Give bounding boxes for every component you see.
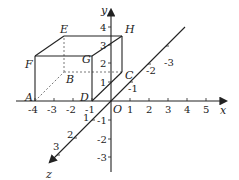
- point-d-label: D: [79, 91, 89, 104]
- origin-label: O: [113, 103, 122, 116]
- z-tick-label: 1: [83, 112, 89, 123]
- x-tick-label: -4: [28, 104, 38, 115]
- point-h-label: H: [124, 23, 135, 36]
- coordinate-diagram: -4 -3 -2 -1 1 2 3 4 5 x 1 2 3 4 -1 -2 -3…: [0, 0, 239, 180]
- point-c-label: C: [125, 69, 134, 82]
- cuboid-edges: [35, 36, 122, 101]
- point-f-label: F: [24, 58, 33, 71]
- z-tick-label: -2: [146, 65, 156, 76]
- y-tick-label: 1: [100, 77, 106, 88]
- x-tick-label: -2: [66, 104, 76, 115]
- z-axis-label: z: [45, 168, 52, 180]
- point-g-label: G: [82, 53, 91, 66]
- y-tick-label: -3: [97, 152, 107, 163]
- x-tick-label: -3: [47, 104, 57, 115]
- hidden-edges: [35, 36, 122, 101]
- y-tick-label: 4: [100, 22, 106, 33]
- z-tick-label: -1: [128, 83, 138, 94]
- z-tick-label: 2: [67, 129, 73, 140]
- x-tick-label: 2: [146, 104, 152, 115]
- x-tick-label: 4: [184, 104, 190, 115]
- y-axis-label: y: [100, 4, 108, 17]
- point-b-label: B: [65, 73, 74, 86]
- x-tick-label: 3: [165, 104, 171, 115]
- y-tick-label: -2: [97, 134, 107, 145]
- y-tick-label: -1: [97, 115, 107, 126]
- y-tick-label: 3: [100, 40, 106, 51]
- point-a-label: A: [24, 91, 33, 104]
- x-tick-label: 5: [203, 104, 209, 115]
- point-e-label: E: [59, 23, 68, 36]
- y-tick-label: 2: [100, 58, 106, 69]
- z-tick-label: 3: [53, 141, 59, 152]
- x-tick-label: 1: [127, 104, 133, 115]
- z-tick-label: -3: [164, 57, 174, 68]
- x-axis-label: x: [220, 104, 227, 117]
